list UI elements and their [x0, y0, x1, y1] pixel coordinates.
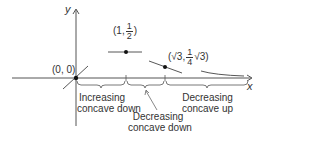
inflection-point-open: (√3, [168, 51, 185, 62]
inflection-point-close: √3) [194, 51, 208, 62]
pointer-line [146, 91, 157, 110]
curve-tail [201, 71, 244, 76]
max-point-den: 2 [126, 32, 133, 41]
origin-point [74, 76, 78, 80]
max-point-label: (1,12) [113, 22, 137, 41]
max-point [124, 50, 128, 54]
inflection-point-label: (√3,14√3) [168, 48, 209, 67]
interval-2-line2: concave down [128, 122, 188, 133]
interval-decreasing-concave-up: Decreasing concave up [180, 92, 235, 114]
interval-2-line1: Decreasing [128, 111, 188, 122]
origin-label: (0, 0) [52, 64, 75, 75]
x-axis-label: x [247, 81, 253, 92]
interval-3-line1: Decreasing [180, 92, 235, 103]
brace-increasing-concave-down [77, 81, 125, 88]
inflection-point-fraction: 14 [186, 48, 193, 67]
brace-decreasing-concave-up [166, 81, 248, 88]
max-point-close: ) [134, 25, 137, 36]
inflection-point [163, 65, 167, 69]
max-point-open: (1, [113, 25, 125, 36]
interval-increasing-concave-down: Increasing concave down [77, 92, 127, 114]
interval-1-line1: Increasing [77, 92, 127, 103]
interval-decreasing-concave-down: Decreasing concave down [128, 111, 188, 133]
inflection-point-den: 4 [186, 58, 193, 67]
interval-1-line2: concave down [77, 103, 127, 114]
max-point-fraction: 12 [126, 22, 133, 41]
y-axis-label: y [65, 4, 71, 15]
interval-3-line2: concave up [180, 103, 235, 114]
brace-decreasing-concave-down [127, 81, 164, 88]
